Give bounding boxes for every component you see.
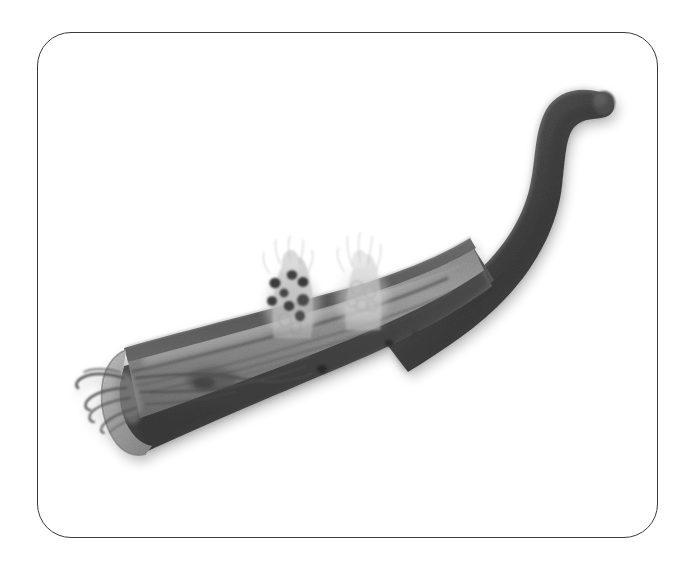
figure-root: curved tubular organ segment, opened lon… bbox=[0, 0, 689, 564]
illustration-frame-border bbox=[37, 32, 658, 538]
